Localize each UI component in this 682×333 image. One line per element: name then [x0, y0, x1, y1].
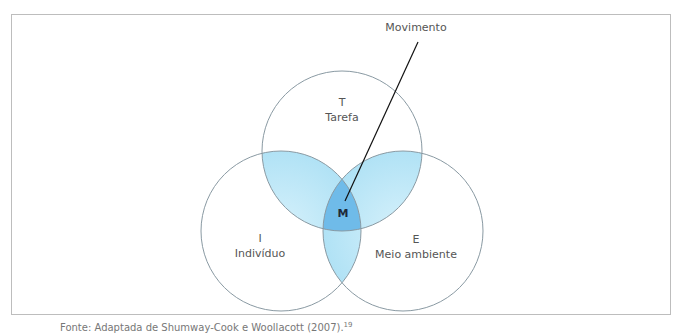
task-label: Tarefa: [325, 111, 358, 124]
center-label: M: [338, 207, 349, 220]
environment-letter: E: [413, 233, 420, 246]
movement-label: Movimento: [385, 21, 446, 34]
caption-ref: 19: [344, 321, 353, 329]
caption-text: Fonte: Adaptada de Shumway-Cook e Woolla…: [60, 322, 344, 333]
figure-caption: Fonte: Adaptada de Shumway-Cook e Woolla…: [60, 321, 353, 333]
task-letter: T: [339, 96, 346, 109]
individual-letter: I: [258, 232, 261, 245]
individual-label: Indivíduo: [235, 247, 286, 260]
environment-label: Meio ambiente: [375, 248, 457, 261]
